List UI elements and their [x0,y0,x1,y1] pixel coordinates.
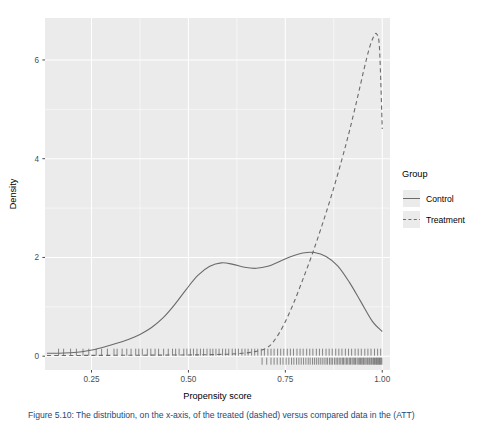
density-plot-figure: 0.250.500.751.000246 Propensity score De… [0,0,498,426]
propensity-density-chart: 0.250.500.751.000246 Propensity score De… [0,0,498,426]
legend-item-control[interactable]: Control [403,190,454,207]
legend: Group Control Treatment [402,169,465,228]
y-tick-label: 4 [34,155,39,164]
legend-label-treatment: Treatment [426,215,465,225]
x-tick-label: 0.75 [277,375,293,384]
x-tick-label: 0.25 [84,375,100,384]
legend-label-control: Control [426,194,454,204]
legend-title: Group [402,169,428,179]
x-tick-label: 1.00 [374,375,390,384]
y-axis-title: Density [8,178,18,209]
rug-group-treatment [262,358,382,365]
figure-caption: Figure 5.10: The distribution, on the x-… [28,410,498,421]
x-tick-label: 0.50 [180,375,196,384]
panel-background [45,18,390,370]
x-axis-title: Propensity score [183,391,251,401]
legend-item-treatment[interactable]: Treatment [403,211,465,228]
y-tick-label: 6 [34,56,39,65]
y-tick-label: 2 [34,253,39,262]
y-tick-label: 0 [34,352,39,361]
plot-panel [45,18,390,370]
